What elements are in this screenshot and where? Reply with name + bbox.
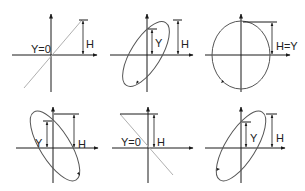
direction-arrow [217,168,221,171]
h-label: H [86,38,94,50]
h-label: H [276,132,284,144]
panel-bottom-center: Y=0 H [112,107,193,183]
panel-top-right: H=Y [205,14,298,92]
h-label: H [181,38,189,50]
h-equals-y-label: H=Y [276,40,298,52]
y-label: Y=0 [31,43,51,55]
y-label: Y [250,132,258,144]
phase-ellipse [114,15,179,94]
y-label: Y [35,137,43,149]
h-label: H [157,136,165,148]
panel-top-center: Y H [110,14,193,93]
lissajous-diagram: Y=0 H Y H H=Y H Y [0,0,305,191]
panel-bottom-right: Y H [205,104,285,188]
panel-top-left: Y=0 H [12,14,97,92]
y-label: Y [155,37,163,49]
y-label: Y=0 [121,136,141,148]
panel-bottom-left: H Y [16,104,98,188]
h-label: H [78,138,86,150]
